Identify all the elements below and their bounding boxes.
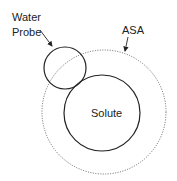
probe-label: Probe (12, 26, 41, 38)
asa-label: ASA (122, 24, 145, 36)
solute-label: Solute (91, 107, 122, 119)
asa-diagram: Water Probe ASA Solute (0, 0, 177, 181)
asa-arrow (125, 37, 128, 51)
water-probe-circle (44, 47, 86, 89)
water-probe-arrow (40, 30, 52, 46)
water-label: Water (12, 11, 41, 23)
